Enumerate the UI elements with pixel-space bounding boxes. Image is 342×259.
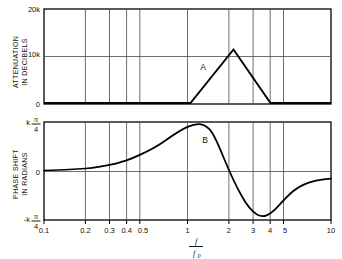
attenuation-axis-title-line1: ATTENUATION [12,36,19,88]
xtick-4: 4 [268,226,272,235]
attenuation-ytick-20k: 20k [28,5,40,14]
x-axis-title: f f 0 [189,237,203,259]
phase-ytick-zero: 0 [36,168,40,177]
phase-axis-title-line1: PHASE SHIFT [12,149,19,199]
xtick-0-3: 0.3 [104,226,114,235]
xtick-2: 2 [227,226,231,235]
xtick-5: 5 [283,226,287,235]
phase-gridlines [85,122,283,220]
xtick-0-2: 0.2 [80,226,90,235]
xtick-1: 1 [185,226,189,235]
attenuation-panel: 20k 10k 0 ATTENUATION IN DECIBELS A [12,5,331,109]
phase-ytick-positive-k: k [26,118,30,127]
xtick-0-1: 0.1 [39,226,49,235]
phase-ytick-positive: k π 4 [26,115,40,134]
phase-ytick-positive-denominator: 4 [34,125,38,134]
x-axis-title-denominator: f [193,249,197,258]
figure-root: 20k 10k 0 ATTENUATION IN DECIBELS A [0,0,342,259]
xtick-0-5: 0.5 [138,226,148,235]
attenuation-ytick-0: 0 [36,100,40,109]
phase-axis-title-line2: IN RADIANS [21,152,28,196]
attenuation-axis-title-line2: IN DECIBELS [21,38,28,85]
phase-panel: k π 4 0 -k π 4 PHASE SHIFT IN RADIANS [12,115,331,231]
xtick-0-4: 0.4 [121,226,131,235]
x-axis-title-denominator-subscript: 0 [198,253,201,259]
attenuation-ytick-10k: 10k [28,50,40,59]
curve-label-A: A [200,62,206,72]
x-axis: 0.1 0.2 0.3 0.4 0.5 1 2 3 4 5 10 f f 0 [39,220,335,259]
x-axis-title-numerator: f [195,237,199,246]
phase-ytick-negative-numerator: π [34,212,38,221]
phase-ytick-positive-numerator: π [34,115,38,124]
phase-ytick-negative-denominator: 4 [34,222,38,231]
curve-label-B: B [202,135,208,145]
phase-ytick-negative-k: -k [24,215,30,224]
xtick-3: 3 [251,226,255,235]
xtick-10: 10 [327,226,335,235]
